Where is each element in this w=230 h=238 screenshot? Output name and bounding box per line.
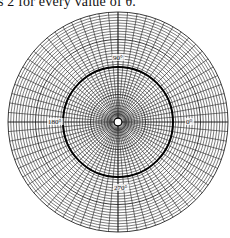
angle-label-90: 90° — [113, 54, 123, 62]
angle-label-0: 0° — [186, 118, 193, 126]
angle-label-270: 270° — [114, 184, 128, 192]
polar-graph: 90°180°0°270° — [0, 0, 230, 238]
grid-spoke — [121, 127, 181, 212]
grid-spoke — [123, 125, 208, 185]
grid-spoke — [121, 32, 181, 117]
grid-spoke — [28, 125, 113, 185]
grid-spoke — [55, 127, 115, 212]
grid-spoke — [123, 59, 208, 119]
grid-spoke — [55, 32, 115, 117]
origin-marker — [114, 118, 122, 126]
angle-label-180: 180° — [48, 118, 62, 126]
grid-spoke — [28, 59, 113, 119]
